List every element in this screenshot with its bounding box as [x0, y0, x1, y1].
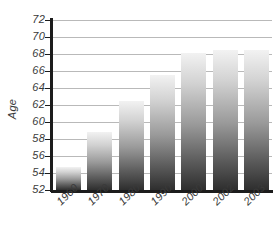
- y-axis-tick-mark: [45, 37, 51, 38]
- y-axis-tick-label: 56: [1, 150, 45, 161]
- x-axis-tick-labels: 1960197019801990200020022003: [53, 193, 272, 242]
- bar: [213, 50, 238, 190]
- y-axis-title: Age: [6, 87, 18, 131]
- y-axis-tick-label: 52: [1, 184, 45, 195]
- y-axis-tick-mark: [45, 54, 51, 55]
- bar: [244, 50, 269, 190]
- y-axis-tick-mark: [45, 88, 51, 89]
- y-axis-tick-label: 58: [1, 133, 45, 144]
- y-axis-tick-label: 72: [1, 14, 45, 25]
- y-axis-tick-mark: [45, 156, 51, 157]
- y-axis-tick-mark: [45, 122, 51, 123]
- y-axis-tick-mark: [45, 190, 51, 191]
- y-axis-tick-mark: [45, 139, 51, 140]
- y-axis-tick-mark: [45, 105, 51, 106]
- y-axis-tick-mark: [45, 71, 51, 72]
- bar: [181, 53, 206, 190]
- bars-group: [53, 20, 272, 190]
- y-axis-tick-label: 70: [1, 31, 45, 42]
- y-axis-tick-label: 66: [1, 65, 45, 76]
- bar-chart: 7270686664626058565452 Age 1960197019801…: [0, 0, 280, 242]
- y-axis-tick-label: 68: [1, 48, 45, 59]
- y-axis-tick-label: 54: [1, 167, 45, 178]
- y-axis-tick-mark: [45, 173, 51, 174]
- bar: [87, 132, 112, 190]
- bar: [119, 101, 144, 190]
- bar: [150, 75, 175, 190]
- y-axis-tick-mark: [45, 20, 51, 21]
